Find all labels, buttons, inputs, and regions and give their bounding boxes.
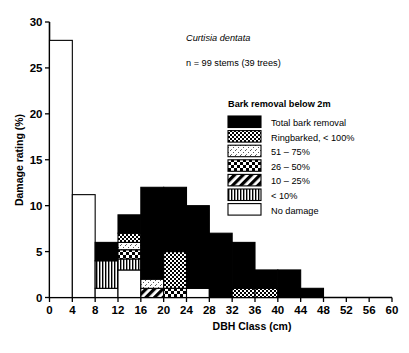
x-tick-label: 48 <box>317 304 330 316</box>
legend-item: Total bark removal <box>228 116 346 128</box>
legend-item: No damage <box>228 204 319 216</box>
legend-label-ringbarked: Ringbarked, < 100% <box>271 133 355 143</box>
legend-label-none: No damage <box>271 206 319 216</box>
damage-rating-histogram: 051015202530 048121620242832364044485256… <box>0 0 409 353</box>
bar-segment-total <box>95 242 118 260</box>
bar-segment-none <box>118 270 141 298</box>
x-tick-label: 8 <box>92 304 99 316</box>
stacked-bar <box>255 270 278 298</box>
bar-segment-total <box>301 288 324 297</box>
x-tick-label: 32 <box>226 304 239 316</box>
x-tick-label: 16 <box>134 304 147 316</box>
legend-label-p10_25: 10 – 25% <box>271 176 310 186</box>
stacked-bar <box>187 206 210 298</box>
bar-segment-total <box>187 206 210 289</box>
stacked-bar <box>50 40 73 297</box>
bar-segment-ringbarked <box>164 252 187 289</box>
stacked-bar <box>278 270 301 298</box>
bar-segment-ringbarked <box>255 288 278 297</box>
x-tick-label: 60 <box>386 304 399 316</box>
bar-segment-total <box>164 187 187 251</box>
x-tick-label: 28 <box>203 304 216 316</box>
bar-segment-total <box>232 242 255 288</box>
chart-figure: 051015202530 048121620242832364044485256… <box>0 0 409 353</box>
legend-swatch-p51_75 <box>228 145 261 157</box>
y-tick-label: 0 <box>36 292 42 304</box>
legend-swatch-p26_50 <box>228 160 261 172</box>
x-tick-label: 40 <box>271 304 284 316</box>
x-tick-label: 36 <box>249 304 262 316</box>
bar-segment-none <box>50 40 73 297</box>
bar-segment-p51_75 <box>141 279 164 288</box>
stacked-bar <box>141 187 164 297</box>
legend-label-p51_75: 51 – 75% <box>271 147 310 157</box>
bar-segment-p10_25 <box>141 288 164 297</box>
bar-segment-total <box>118 215 141 233</box>
legend-label-lt10: < 10% <box>271 191 297 201</box>
legend-swatch-lt10 <box>228 189 261 201</box>
x-tick-label: 56 <box>363 304 376 316</box>
bar-segment-lt10 <box>95 261 118 289</box>
bar-segment-total <box>255 270 278 288</box>
bar-segment-p26_50 <box>118 250 141 259</box>
legend-swatch-none <box>228 204 261 216</box>
species-annotation: Curtisia dentata <box>186 33 250 43</box>
y-tick-label: 10 <box>30 200 43 212</box>
x-tick-label: 20 <box>157 304 170 316</box>
x-tick-label: 52 <box>340 304 353 316</box>
stacked-bar <box>95 242 118 297</box>
bar-segment-p26_50 <box>164 288 187 297</box>
x-tick-label: 0 <box>46 304 52 316</box>
stacked-bar <box>164 187 187 297</box>
bar-segment-ringbarked <box>118 233 141 242</box>
x-tick-label: 4 <box>69 304 76 316</box>
legend-label-p26_50: 26 – 50% <box>271 162 310 172</box>
sample-size-annotation: n = 99 stems (39 trees) <box>186 58 281 68</box>
bar-segment-none <box>187 288 210 297</box>
stacked-bar <box>232 242 255 297</box>
y-tick-label: 5 <box>36 246 43 258</box>
x-tick-label: 44 <box>294 304 307 316</box>
stacked-bar <box>301 288 324 297</box>
bar-segment-total <box>278 270 301 298</box>
legend-item: Ringbarked, < 100% <box>228 131 355 143</box>
bar-segment-total <box>209 233 232 297</box>
bar-segment-total <box>141 187 164 279</box>
stacked-bar <box>209 233 232 297</box>
bar-segment-lt10 <box>118 259 141 270</box>
y-tick-label: 15 <box>30 154 43 166</box>
x-axis-title: DBH Class (cm) <box>213 320 292 332</box>
bar-segment-p51_75 <box>118 242 141 249</box>
y-axis-title: Damage rating (%) <box>13 114 25 206</box>
legend-swatch-p10_25 <box>228 174 261 186</box>
legend-title: Bark removal below 2m <box>228 99 331 109</box>
bar-segment-ringbarked <box>232 288 255 297</box>
y-tick-label: 25 <box>30 62 43 74</box>
legend-label-total: Total bark removal <box>271 118 346 128</box>
y-tick-label: 30 <box>30 16 43 28</box>
bar-segment-none <box>95 288 118 297</box>
stacked-bar <box>72 195 95 298</box>
y-tick-label: 20 <box>30 108 43 120</box>
bar-segment-none <box>72 195 95 298</box>
legend-swatch-ringbarked <box>228 131 261 143</box>
stacked-bar <box>118 215 141 298</box>
x-tick-label: 12 <box>112 304 125 316</box>
legend-swatch-total <box>228 116 261 128</box>
x-tick-label: 24 <box>180 304 193 316</box>
